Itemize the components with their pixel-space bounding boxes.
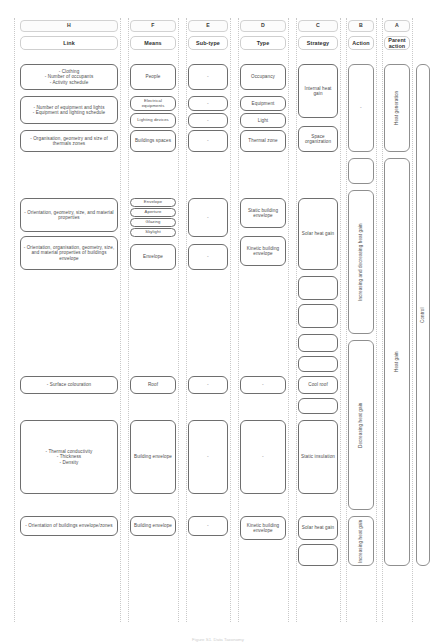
strategy-cell: Cool roof: [298, 376, 338, 394]
column-guide-parent-left: [382, 18, 383, 622]
column-title-type: Type: [240, 36, 286, 50]
parent-action-cell: Heat gain: [384, 158, 410, 566]
means-cell: Envelope: [130, 198, 176, 207]
column-code-c: C: [298, 20, 338, 32]
subtype-cell: -: [188, 64, 228, 90]
strategy-cell: Internal heat gain: [298, 64, 338, 118]
subtype-cell: -: [188, 198, 228, 237]
column-guide-strategy-left: [296, 18, 297, 622]
strategy-cell: Solar heat gain: [298, 198, 338, 270]
strategy-cell: [298, 398, 338, 414]
means-cell: Building envelope: [130, 516, 176, 536]
column-guide-means-left: [128, 18, 129, 622]
link-cell: - Clothing - Number of occupants - Activ…: [20, 64, 118, 90]
type-cell: Kinetic building envelope: [240, 516, 286, 540]
strategy-cell: Static insulation: [298, 420, 338, 494]
column-code-h: H: [20, 20, 118, 32]
subtype-cell: -: [188, 244, 228, 270]
parent-action-cell: Heat generation: [384, 64, 410, 152]
subtype-cell: -: [188, 130, 228, 152]
column-guide-strategy-right: [340, 18, 341, 622]
column-guide-parent-right: [412, 18, 413, 622]
subtype-cell: -: [188, 376, 228, 394]
subtype-cell: -: [188, 516, 228, 536]
strategy-cell: [298, 304, 338, 328]
column-guide-type-left: [238, 18, 239, 622]
action-cell: Increasing heat gain: [348, 516, 374, 566]
means-cell: Building envelope: [130, 420, 176, 494]
column-code-e: E: [188, 20, 228, 32]
action-cell: [348, 158, 374, 184]
column-guide-means-right: [178, 18, 179, 622]
action-cell: Increasing and decreasing heat gain: [348, 190, 374, 334]
strategy-cell: [298, 276, 338, 300]
column-guide-subtype-left: [186, 18, 187, 622]
control-cell: Control: [416, 64, 430, 566]
link-cell: - Organisation, geometry and size of the…: [20, 130, 118, 152]
column-title-link: Link: [20, 36, 118, 50]
strategy-cell: [298, 334, 338, 352]
column-guide-action-left: [346, 18, 347, 622]
subtype-cell: -: [188, 420, 228, 494]
column-code-d: D: [240, 20, 286, 32]
column-title-parent-action: Parent action: [384, 36, 410, 50]
type-cell: Light: [240, 113, 286, 128]
link-cell: - Thermal conductivity - Thickness - Den…: [20, 420, 118, 494]
figure-caption: Figure S1. Data Taxonomy: [0, 637, 436, 642]
type-cell: Static building envelope: [240, 198, 286, 228]
column-code-f: F: [130, 20, 176, 32]
link-cell: - Orientation, organisation, geometry, s…: [20, 236, 118, 270]
type-cell: Equipment: [240, 96, 286, 111]
type-cell: Thermal zone: [240, 130, 286, 152]
type-cell: -: [240, 376, 286, 394]
type-cell: -: [240, 420, 286, 494]
column-title-means: Means: [130, 36, 176, 50]
strategy-cell: Solar heat gain: [298, 516, 338, 540]
column-code-a: A: [384, 20, 410, 32]
column-guide-link-right: [120, 18, 121, 622]
column-guide-type-right: [288, 18, 289, 622]
action-cell: -: [348, 64, 374, 152]
subtype-cell: -: [188, 96, 228, 111]
means-cell: Lighting devices: [130, 113, 176, 128]
strategy-cell: Space organization: [298, 126, 338, 152]
means-cell: Roof: [130, 376, 176, 394]
column-guide-subtype-right: [230, 18, 231, 622]
link-cell: - Orientation of buildings envelope/zone…: [20, 516, 118, 536]
link-cell: - Surface colouration: [20, 376, 118, 394]
strategy-cell: [298, 356, 338, 372]
taxonomy-diagram: H F E D C B A Link Means Sub-type Type S…: [0, 0, 436, 644]
means-cell: Glazing: [130, 218, 176, 227]
column-code-b: B: [348, 20, 374, 32]
means-cell: Buildings spaces: [130, 130, 176, 152]
strategy-cell: [298, 544, 338, 566]
means-cell: Skylight: [130, 228, 176, 237]
column-title-action: Action: [348, 36, 374, 50]
means-cell: Electrical equipments: [130, 96, 176, 111]
type-cell: Occupancy: [240, 64, 286, 90]
link-cell: - Number of equipment and lights - Equip…: [20, 96, 118, 124]
subtype-cell: -: [188, 113, 228, 128]
type-cell: Kinetic building envelope: [240, 236, 286, 266]
link-cell: - Orientation, geometry, size, and mater…: [20, 198, 118, 232]
means-cell: Envelope: [130, 244, 176, 270]
action-cell: Decreasing heat gain: [348, 340, 374, 510]
column-guide-link-left: [14, 18, 15, 622]
column-title-subtype: Sub-type: [188, 36, 228, 50]
means-cell: People: [130, 64, 176, 90]
column-guide-action-right: [376, 18, 377, 622]
means-cell: Aperture: [130, 208, 176, 217]
column-title-strategy: Strategy: [298, 36, 338, 50]
